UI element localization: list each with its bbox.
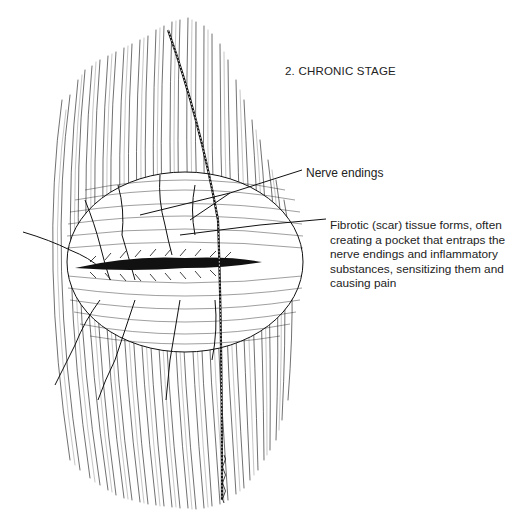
fibrotic-label-line: nerve endings and inflammatory xyxy=(330,247,510,262)
fibrotic-label-line: substances, sensitizing them and xyxy=(330,262,510,277)
fibrotic-tissue-label: Fibrotic (scar) tissue forms, often crea… xyxy=(330,218,510,291)
figure-title: 2. CHRONIC STAGE xyxy=(285,65,396,77)
fibrotic-label-line: causing pain xyxy=(330,276,510,291)
fibrotic-label-line: Fibrotic (scar) tissue forms, often xyxy=(330,218,510,233)
fibrotic-label-line: creating a pocket that entraps the xyxy=(330,233,510,248)
nerve-endings-label: Nerve endings xyxy=(306,166,383,180)
